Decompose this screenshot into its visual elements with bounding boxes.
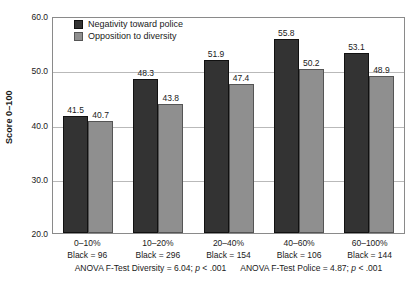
legend-label: Negativity toward police (88, 19, 183, 29)
bar-group: 55.850.2 (264, 18, 334, 233)
footnote-police-suffix: < .001 (356, 263, 382, 273)
x-tick-label: 10–20%Black = 296 (123, 238, 194, 261)
x-tick-label: 20–40%Black = 154 (193, 238, 264, 261)
bar[interactable]: 41.5 (63, 116, 88, 233)
x-tick-sublabel: Black = 154 (193, 250, 264, 262)
bar[interactable]: 55.8 (274, 39, 299, 233)
bar[interactable]: 40.7 (88, 121, 113, 233)
footnote-diversity-prefix: ANOVA F-Test Diversity = 6.04; (75, 263, 196, 273)
x-tick-sublabel: Black = 144 (334, 250, 405, 262)
bar[interactable]: 50.2 (299, 69, 324, 233)
x-tick-category: 40–60% (264, 238, 335, 250)
x-tick-label: 0–10%Black = 96 (52, 238, 123, 261)
footnote-police: ANOVA F-Test Police = 4.87; p < .001 (240, 263, 382, 273)
bar-value-label: 51.9 (208, 49, 225, 59)
footnote-police-prefix: ANOVA F-Test Police = 4.87; (240, 263, 351, 273)
bar-value-label: 48.3 (138, 68, 155, 78)
bar-group: 53.148.9 (334, 18, 404, 233)
footnote-diversity: ANOVA F-Test Diversity = 6.04; p < .001 (75, 263, 227, 273)
bar-value-label: 53.1 (348, 42, 365, 52)
legend-item[interactable]: Opposition to diversity (74, 31, 183, 41)
legend-swatch-icon (74, 20, 83, 29)
x-tick-category: 0–10% (52, 238, 123, 250)
y-axis-tick-labels: 60.050.040.030.020.0 (16, 17, 48, 234)
bar-group: 51.947.4 (193, 18, 263, 233)
x-tick-label: 40–60%Black = 106 (264, 238, 335, 261)
bar-value-label: 41.5 (67, 105, 84, 115)
bar[interactable]: 51.9 (204, 60, 229, 233)
bar-value-label: 47.4 (233, 73, 250, 83)
x-tick-sublabel: Black = 296 (123, 250, 194, 262)
bar[interactable]: 43.8 (158, 104, 183, 233)
plot-area: 41.540.748.343.851.947.455.850.253.148.9 (52, 17, 405, 234)
legend: Negativity toward policeOpposition to di… (74, 19, 183, 41)
bar-chart-figure: Score 0–100 60.050.040.030.020.0 41.540.… (0, 0, 420, 286)
bar-value-label: 55.8 (278, 28, 295, 38)
footnote-diversity-suffix: < .001 (200, 263, 226, 273)
bar-value-label: 43.8 (163, 93, 180, 103)
x-tick-label: 60–100%Black = 144 (334, 238, 405, 261)
bar-value-label: 40.7 (92, 110, 109, 120)
x-tick-category: 10–20% (123, 238, 194, 250)
legend-label: Opposition to diversity (88, 31, 177, 41)
bar[interactable]: 48.3 (133, 79, 158, 233)
bar-value-label: 50.2 (303, 58, 320, 68)
y-tick-label: 30.0 (31, 175, 48, 185)
bar-value-label: 48.9 (373, 65, 390, 75)
bar[interactable]: 48.9 (369, 76, 394, 233)
y-tick-label: 50.0 (31, 66, 48, 76)
legend-item[interactable]: Negativity toward police (74, 19, 183, 29)
bar-group: 48.343.8 (123, 18, 193, 233)
y-axis-title: Score 0–100 (2, 0, 16, 234)
bar-groups: 41.540.748.343.851.947.455.850.253.148.9 (53, 18, 404, 233)
x-tick-category: 60–100% (334, 238, 405, 250)
bar[interactable]: 53.1 (344, 53, 369, 233)
x-tick-category: 20–40% (193, 238, 264, 250)
x-tick-sublabel: Black = 106 (264, 250, 335, 262)
chart-footnote: ANOVA F-Test Diversity = 6.04; p < .001 … (52, 263, 405, 273)
bar-group: 41.540.7 (53, 18, 123, 233)
legend-swatch-icon (74, 32, 83, 41)
y-tick-label: 20.0 (31, 229, 48, 239)
y-tick-label: 60.0 (31, 12, 48, 22)
bar[interactable]: 47.4 (229, 84, 254, 233)
x-axis-tick-labels: 0–10%Black = 9610–20%Black = 29620–40%Bl… (52, 238, 405, 261)
y-tick-label: 40.0 (31, 121, 48, 131)
x-tick-sublabel: Black = 96 (52, 250, 123, 262)
